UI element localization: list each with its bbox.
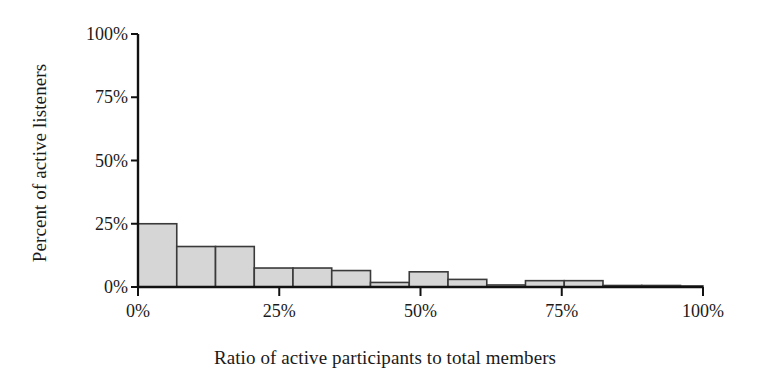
x-tick-label: 50%	[376, 301, 466, 322]
histogram-bar	[293, 268, 332, 287]
histogram-bar	[332, 271, 371, 287]
x-tick-label: 0%	[93, 301, 183, 322]
y-tick-label: 75%	[66, 87, 128, 108]
x-tick-label: 25%	[234, 301, 324, 322]
histogram-figure: Percent of active listeners Ratio of act…	[0, 0, 770, 384]
y-axis-label: Percent of active listeners	[29, 13, 51, 313]
plot-area	[0, 0, 770, 384]
y-tick-label: 50%	[66, 150, 128, 171]
histogram-bar	[138, 224, 177, 287]
x-tick-label: 100%	[658, 301, 748, 322]
x-axis-label: Ratio of active participants to total me…	[0, 347, 770, 369]
histogram-bar	[177, 247, 216, 287]
y-tick-label: 100%	[66, 24, 128, 45]
x-tick-label: 75%	[517, 301, 607, 322]
bar-series	[138, 224, 703, 287]
histogram-bar	[254, 268, 293, 287]
histogram-bar	[216, 247, 255, 287]
y-tick-label: 25%	[66, 213, 128, 234]
y-tick-label: 0%	[66, 277, 128, 298]
histogram-bar	[409, 272, 448, 287]
